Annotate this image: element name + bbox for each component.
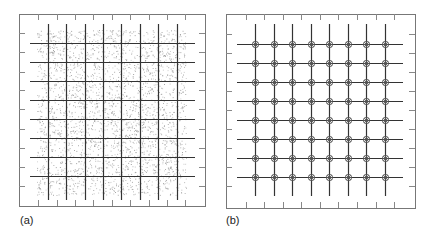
intersection-markers — [252, 41, 388, 180]
grid-lines — [237, 24, 403, 196]
grid-diagram-b — [0, 0, 431, 236]
panel-caption-b: (b) — [226, 214, 239, 226]
